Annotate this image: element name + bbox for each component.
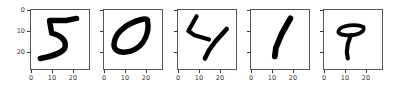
x-tick [220,70,221,73]
x-tick [146,70,147,73]
digit-image-9 [324,10,382,69]
y-tick [174,31,177,32]
digit-image-4 [178,10,236,69]
x-tick [31,70,32,73]
y-tick [320,31,323,32]
x-tick [366,70,367,73]
x-tick [73,70,74,73]
y-tick-label: 0 [11,6,25,14]
x-tick [324,70,325,73]
digit-panel-1: 0 10 20 [250,9,310,70]
x-tick-label: 0 [244,74,258,82]
x-tick-label: 0 [24,74,38,82]
y-tick [174,10,177,11]
digit-panel-9: 0 10 20 [323,9,383,70]
x-tick-label: 20 [66,74,80,82]
x-tick [104,70,105,73]
x-tick-label: 20 [213,74,227,82]
x-tick [345,70,346,73]
y-tick [27,10,30,11]
x-tick-label: 20 [139,74,153,82]
x-tick-label: 20 [286,74,300,82]
y-tick [27,52,30,53]
digit-image-0 [104,10,162,69]
y-tick [174,52,177,53]
y-tick [27,31,30,32]
digit-image-1 [251,10,309,69]
x-tick [52,70,53,73]
x-tick-label: 0 [97,74,111,82]
digit-panel-0: 0 10 20 [103,9,163,70]
x-tick-label: 0 [317,74,331,82]
x-tick-label: 10 [265,74,279,82]
y-tick [100,31,103,32]
y-tick [247,52,250,53]
digit-panel-4: 0 10 20 [177,9,237,70]
digit-panel-5: 0 10 20 0 10 20 [30,9,90,70]
x-tick [178,70,179,73]
y-tick-label: 20 [11,48,25,56]
x-tick-label: 10 [338,74,352,82]
y-tick [100,52,103,53]
x-tick [125,70,126,73]
y-tick [247,10,250,11]
x-tick-label: 10 [45,74,59,82]
x-tick-label: 10 [118,74,132,82]
digit-image-5 [31,10,89,69]
y-tick [320,52,323,53]
x-tick-label: 10 [192,74,206,82]
y-tick-label: 10 [11,27,25,35]
x-tick [293,70,294,73]
y-tick [247,31,250,32]
x-tick-label: 0 [171,74,185,82]
x-tick-label: 20 [359,74,373,82]
y-tick [100,10,103,11]
x-tick [272,70,273,73]
x-tick [199,70,200,73]
y-tick [320,10,323,11]
x-tick [251,70,252,73]
